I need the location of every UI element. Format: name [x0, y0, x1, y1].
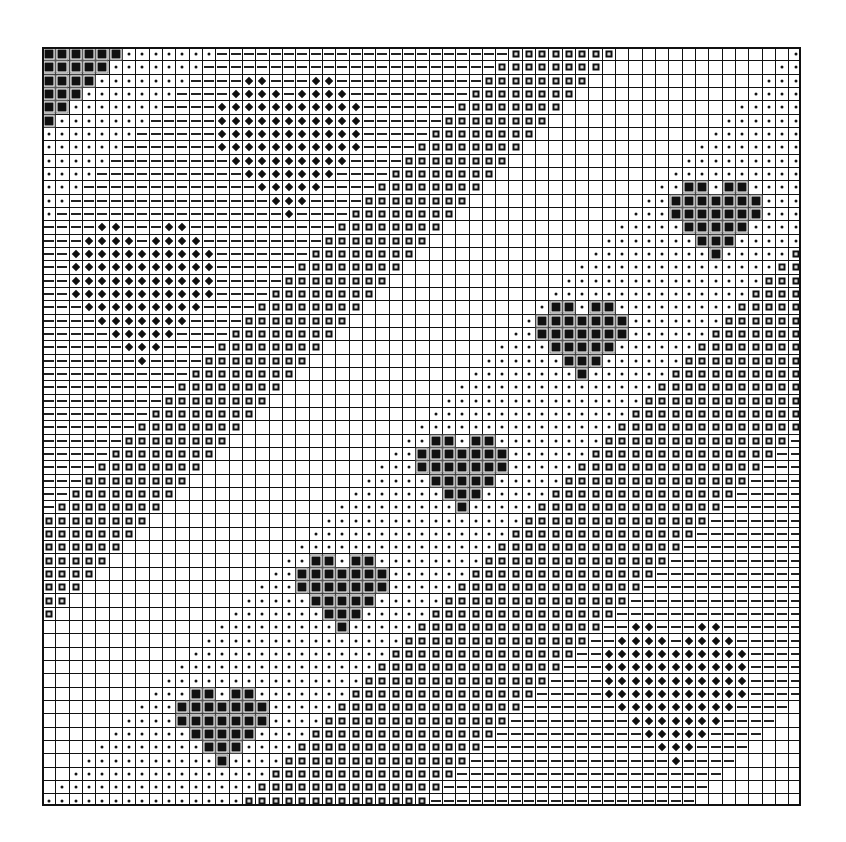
grid-cell — [470, 621, 483, 634]
grid-cell — [643, 315, 656, 328]
hollow-square-icon — [459, 730, 466, 737]
filled-square-icon — [58, 103, 67, 112]
grid-cell — [749, 288, 762, 301]
grid-cell — [283, 101, 296, 114]
grid-cell — [416, 395, 429, 408]
dash-icon — [297, 240, 307, 242]
grid-cell — [256, 594, 269, 607]
grid-cell — [723, 315, 736, 328]
hollow-square-icon — [792, 371, 799, 378]
dot-icon — [781, 106, 784, 109]
grid-cell — [390, 674, 403, 687]
dash-icon — [244, 186, 254, 188]
grid-cell — [789, 661, 801, 674]
dot-icon — [754, 146, 757, 149]
grid-cell — [363, 115, 376, 128]
hollow-square-icon — [472, 677, 479, 684]
grid-cell — [350, 781, 363, 794]
grid-cell — [176, 368, 189, 381]
hollow-square-icon — [406, 677, 413, 684]
grid-cell — [509, 541, 522, 554]
dot-icon — [581, 306, 584, 309]
grid-cell — [776, 248, 789, 261]
dot-icon — [408, 599, 411, 602]
grid-cell — [616, 674, 629, 687]
dot-icon — [674, 266, 677, 269]
dot-icon — [434, 586, 437, 589]
dash-icon — [71, 466, 81, 468]
grid-cell — [83, 288, 96, 301]
dash-icon — [764, 680, 774, 682]
hollow-square-icon — [366, 704, 373, 711]
dot-icon — [248, 612, 251, 615]
hollow-square-icon — [765, 357, 772, 364]
filled-square-icon — [178, 716, 187, 725]
dash-icon — [391, 160, 401, 162]
grid-cell — [549, 781, 562, 794]
grid-cell — [336, 395, 349, 408]
dash-icon — [191, 93, 201, 95]
grid-cell — [310, 421, 323, 434]
grid-cell — [43, 781, 56, 794]
grid-cell — [336, 381, 349, 394]
grid-cell — [176, 594, 189, 607]
grid-cell — [163, 461, 176, 474]
grid-cell — [150, 461, 163, 474]
dash-icon — [751, 666, 761, 668]
hollow-square-icon — [272, 344, 279, 351]
grid-cell — [403, 608, 416, 621]
dot-icon — [128, 93, 131, 96]
grid-cell — [256, 421, 269, 434]
dash-icon — [764, 720, 774, 722]
grid-cell — [416, 355, 429, 368]
hollow-square-icon — [419, 157, 426, 164]
diamond-icon — [311, 143, 319, 151]
grid-cell — [136, 355, 149, 368]
grid-cell — [283, 448, 296, 461]
grid-cell — [390, 101, 403, 114]
hollow-square-icon — [326, 797, 333, 804]
grid-cell — [709, 195, 722, 208]
hollow-square-icon — [712, 411, 719, 418]
grid-cell — [430, 754, 443, 767]
hollow-square-icon — [472, 91, 479, 98]
grid-cell — [563, 248, 576, 261]
grid-cell — [430, 488, 443, 501]
dot-icon — [421, 506, 424, 509]
grid-cell — [643, 128, 656, 141]
dot-icon — [88, 133, 91, 136]
grid-cell — [190, 594, 203, 607]
grid-cell — [43, 235, 56, 248]
dash-icon — [57, 293, 67, 295]
grid-cell — [110, 568, 123, 581]
grid-cell — [536, 75, 549, 88]
dash-icon — [124, 400, 134, 402]
grid-cell — [190, 781, 203, 794]
grid-cell — [496, 554, 509, 567]
grid-cell — [70, 408, 83, 421]
grid-cell — [536, 688, 549, 701]
grid-cell — [669, 541, 682, 554]
grid-cell — [643, 528, 656, 541]
hollow-square-icon — [392, 197, 399, 204]
dot-icon — [354, 492, 357, 495]
grid-cell — [110, 781, 123, 794]
grid-cell — [430, 621, 443, 634]
hollow-square-icon — [552, 584, 559, 591]
dot-icon — [381, 612, 384, 615]
grid-cell — [136, 328, 149, 341]
grid-cell — [283, 395, 296, 408]
grid-cell — [203, 621, 216, 634]
grid-cell — [523, 301, 536, 314]
dot-icon — [301, 692, 304, 695]
grid-cell — [549, 261, 562, 274]
grid-cell — [283, 781, 296, 794]
grid-cell — [203, 568, 216, 581]
grid-cell — [283, 61, 296, 74]
grid-cell — [296, 488, 309, 501]
grid-cell — [136, 115, 149, 128]
grid-cell — [43, 328, 56, 341]
grid-cell — [56, 541, 69, 554]
grid-cell — [243, 501, 256, 514]
grid-cell — [296, 261, 309, 274]
